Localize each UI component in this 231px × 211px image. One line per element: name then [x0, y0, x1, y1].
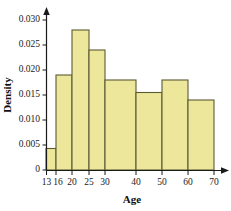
bar-13-16 — [46, 149, 56, 171]
y-tick-label-5: 0.025 — [19, 39, 41, 49]
y-tick-label-2: 0.010 — [19, 114, 41, 124]
bar-50-60 — [162, 80, 188, 170]
x-tick-label-50: 50 — [157, 177, 167, 187]
x-tick-label-16: 16 — [53, 177, 63, 187]
histogram-figure: Density 0 0.005 0.010 0.015 0.020 0.025 … — [0, 0, 231, 211]
y-axis-title-text: Density — [1, 77, 13, 113]
x-tick-label-70: 70 — [209, 177, 219, 187]
y-tick-label-3: 0.015 — [19, 89, 41, 99]
y-tick-label-6: 0.030 — [19, 14, 41, 24]
y-axis-arrow-icon — [43, 7, 49, 15]
bar-20-25 — [72, 30, 89, 170]
bar-40-50 — [136, 93, 162, 171]
bar-60-70 — [188, 100, 214, 170]
y-tick-label-4: 0.020 — [19, 64, 41, 74]
chart-canvas: Density 0 0.005 0.010 0.015 0.020 0.025 … — [0, 0, 231, 211]
bars-group — [46, 30, 214, 170]
bar-16-20 — [56, 75, 72, 170]
y-axis-title: Density — [1, 77, 13, 113]
x-axis-arrow-icon — [221, 167, 229, 173]
x-tick-label-25: 25 — [84, 177, 94, 187]
x-tick-label-20: 20 — [67, 177, 77, 187]
bar-30-40 — [105, 80, 136, 170]
y-tick-label-1: 0.005 — [19, 139, 41, 149]
x-tick-label-40: 40 — [131, 177, 141, 187]
x-tick-label-13: 13 — [42, 177, 52, 187]
bar-25-30 — [89, 50, 105, 170]
x-tick-label-60: 60 — [183, 177, 193, 187]
x-tick-label-30: 30 — [100, 177, 110, 187]
x-axis-title: Age — [123, 193, 141, 205]
y-tick-label-0: 0 — [35, 164, 40, 174]
